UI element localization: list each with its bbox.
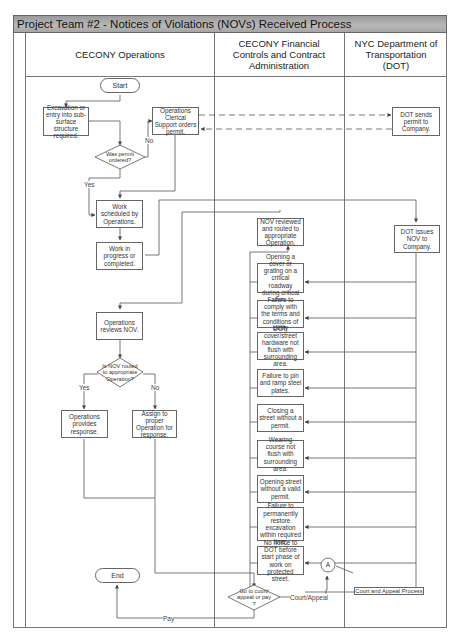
end-terminal: End (95, 568, 140, 583)
dot-issues-nov-box: DOT issues NOV to Company. (394, 225, 440, 253)
edge-label-pay: Pay (163, 615, 174, 622)
work-in-progress-box: Work in progress or completed. (96, 242, 143, 270)
violation-box: Closing a street without a permit. (257, 404, 304, 432)
edge-label-yes: Yes (84, 181, 95, 188)
excavation-box: Excavation or entry into sub-surface str… (43, 107, 89, 136)
violation-box: Failure to permanently restore excavatio… (257, 507, 304, 541)
edge-label-yes: Yes (79, 384, 90, 391)
edge-label-no: No (145, 137, 153, 144)
nov-reviewed-box: NOV reviewed and routed to appropriate O… (257, 218, 304, 246)
court-decision: Go to court/ appeal or pay ? (236, 591, 272, 604)
violation-box: Wearing course not flush with surroundin… (257, 440, 304, 468)
dot-sends-permit-box: DOT sends permit to Company. (392, 107, 440, 136)
routed-decision: Is NOV routed to appropriate Operation? (102, 364, 138, 381)
work-scheduled-box: Work scheduled by Operations. (96, 200, 143, 228)
ops-clerical-box: Operations Clerical Support orders permi… (152, 107, 199, 135)
permit-decision: Was permit ordered? (100, 150, 140, 164)
violation-box: Failure to pin and ramp steel plates. (257, 369, 304, 397)
connector-a: A (322, 561, 334, 570)
edge-label-court-appeal: Court/Appeal (290, 594, 328, 601)
violation-box: No notice to DOT before start phase of w… (257, 546, 304, 575)
violation-box: Opening street without a valid permit. (257, 475, 304, 503)
assign-proper-box: Assign to proper Operation for response. (132, 410, 177, 438)
court-appeal-process-box: Court and Appeal Process (354, 587, 424, 595)
ops-reviews-nov-box: Operations reviews NOV. (96, 312, 143, 340)
edge-label-no: No (151, 384, 159, 391)
start-terminal: Start (100, 78, 140, 93)
violation-box: Utility cover/street hardware not flush … (257, 332, 304, 360)
violation-box: Opening a cover or grating on a critical… (257, 263, 304, 293)
connector-lines (0, 0, 463, 637)
ops-provides-response-box: Operations provides response. (61, 410, 108, 438)
